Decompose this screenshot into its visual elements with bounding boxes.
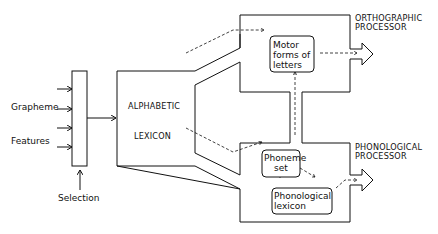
selection-bar: [72, 71, 87, 166]
selection-label: Selection: [58, 193, 99, 203]
features-label: Features: [11, 136, 50, 146]
phonological-processor-title: PHONOLOGICAL PROCESSOR: [355, 143, 422, 161]
phonological-lexicon-line2: lexicon: [274, 201, 331, 211]
phoneme-set-line1: Phoneme: [264, 153, 298, 163]
phonological-title-line2: PROCESSOR: [355, 152, 422, 161]
orthographic-title-line2: PROCESSOR: [355, 23, 422, 32]
phonological-lexicon-text: Phonological lexicon: [274, 191, 331, 211]
motor-forms-line3: letters: [273, 60, 310, 70]
motor-forms-line2: forms of: [273, 50, 310, 60]
phonological-lexicon-line1: Phonological: [274, 191, 331, 201]
motor-forms-text: Motor forms of letters: [273, 40, 310, 70]
motor-forms-line1: Motor: [273, 40, 310, 50]
alphabetic-lexicon-shape: [117, 34, 240, 189]
phoneme-set-line2: set: [264, 163, 298, 173]
phoneme-set-text: Phoneme set: [264, 153, 298, 173]
alphabetic-lexicon-line1: ALPHABETIC: [128, 101, 180, 111]
input-arrows: [57, 89, 72, 147]
orthographic-processor-title: ORTHOGRAPHIC PROCESSOR: [355, 14, 422, 32]
alphabetic-lexicon-line2: LEXICON: [134, 131, 171, 141]
grapheme-label: Grapheme: [11, 102, 58, 112]
